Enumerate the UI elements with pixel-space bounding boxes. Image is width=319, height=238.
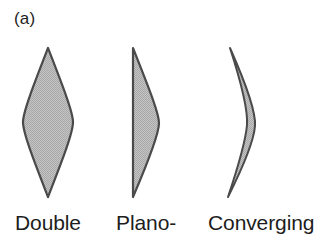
lens-group-double [23, 48, 73, 197]
lens-diagram-canvas [0, 0, 319, 238]
caption-row: Double Plano- Converging [0, 208, 319, 238]
lens-group-plano [133, 48, 159, 197]
meniscus-converging-lens-shape [228, 48, 255, 197]
lens-figure-panel: (a) Double Plano- Converging [0, 0, 319, 238]
caption-plano: Plano- [116, 210, 176, 236]
caption-double: Double [15, 210, 81, 236]
plano-convex-lens-shape [133, 48, 159, 197]
lens-group-converging [228, 48, 255, 197]
caption-converging: Converging [208, 210, 314, 236]
double-convex-lens-shape [23, 48, 73, 197]
